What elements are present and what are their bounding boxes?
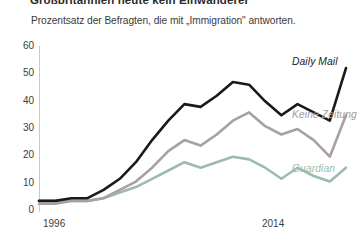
y-tick-0: 0 — [4, 205, 34, 215]
line-keine-zeitung — [39, 112, 346, 203]
chart-subtitle: Prozentsatz der Befragten, die mit „Immi… — [31, 15, 296, 26]
series-label-daily-mail: Daily Mail — [292, 56, 338, 67]
y-tick-30: 30 — [4, 123, 34, 133]
series-lines — [39, 46, 346, 212]
series-label-guardian: Guardian — [292, 163, 335, 174]
y-tick-10: 10 — [4, 178, 34, 188]
chart-figure: Großbritannien heute kein Einwanderer Pr… — [0, 0, 363, 245]
y-tick-50: 50 — [4, 68, 34, 78]
y-tick-40: 40 — [4, 96, 34, 106]
x-tick-2014: 2014 — [262, 218, 284, 229]
plot-area — [39, 46, 346, 212]
y-tick-60: 60 — [4, 41, 34, 51]
series-label-keine-zeitung: Keine Zeitung — [292, 109, 357, 120]
y-axis-tick-labels: 60 50 40 30 20 10 0 — [0, 46, 34, 212]
y-tick-20: 20 — [4, 150, 34, 160]
x-tick-1996: 1996 — [43, 218, 65, 229]
page-title: Großbritannien heute kein Einwanderer — [30, 0, 249, 6]
line-daily-mail — [39, 68, 346, 201]
